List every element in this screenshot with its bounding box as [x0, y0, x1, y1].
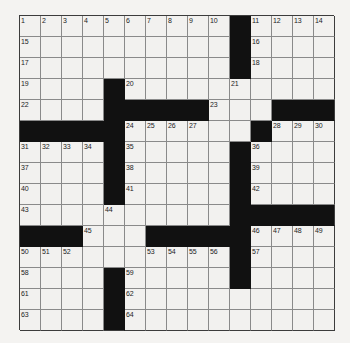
letter-cell[interactable] [209, 184, 230, 205]
letter-cell[interactable] [209, 310, 230, 331]
letter-cell[interactable] [83, 184, 104, 205]
letter-cell[interactable] [146, 79, 167, 100]
letter-cell[interactable] [62, 289, 83, 310]
letter-cell[interactable] [167, 79, 188, 100]
letter-cell[interactable]: 12 [272, 16, 293, 37]
letter-cell[interactable]: 21 [230, 79, 251, 100]
letter-cell[interactable] [188, 163, 209, 184]
letter-cell[interactable] [272, 37, 293, 58]
letter-cell[interactable]: 61 [20, 289, 41, 310]
letter-cell[interactable] [125, 226, 146, 247]
letter-cell[interactable] [251, 100, 272, 121]
letter-cell[interactable] [41, 100, 62, 121]
letter-cell[interactable] [62, 184, 83, 205]
letter-cell[interactable]: 49 [314, 226, 335, 247]
letter-cell[interactable] [188, 268, 209, 289]
letter-cell[interactable] [293, 163, 314, 184]
letter-cell[interactable]: 51 [41, 247, 62, 268]
letter-cell[interactable] [293, 58, 314, 79]
letter-cell[interactable]: 63 [20, 310, 41, 331]
letter-cell[interactable] [167, 184, 188, 205]
letter-cell[interactable] [314, 268, 335, 289]
letter-cell[interactable] [104, 226, 125, 247]
letter-cell[interactable] [293, 289, 314, 310]
letter-cell[interactable]: 32 [41, 142, 62, 163]
letter-cell[interactable]: 33 [62, 142, 83, 163]
letter-cell[interactable]: 46 [251, 226, 272, 247]
letter-cell[interactable]: 64 [125, 310, 146, 331]
letter-cell[interactable] [251, 289, 272, 310]
letter-cell[interactable]: 42 [251, 184, 272, 205]
letter-cell[interactable] [146, 142, 167, 163]
letter-cell[interactable] [167, 37, 188, 58]
letter-cell[interactable]: 23 [209, 100, 230, 121]
letter-cell[interactable] [41, 184, 62, 205]
letter-cell[interactable] [62, 58, 83, 79]
letter-cell[interactable] [251, 268, 272, 289]
letter-cell[interactable] [314, 247, 335, 268]
letter-cell[interactable] [293, 247, 314, 268]
letter-cell[interactable] [188, 184, 209, 205]
letter-cell[interactable]: 59 [125, 268, 146, 289]
letter-cell[interactable]: 52 [62, 247, 83, 268]
letter-cell[interactable]: 28 [272, 121, 293, 142]
letter-cell[interactable] [209, 163, 230, 184]
letter-cell[interactable] [104, 58, 125, 79]
letter-cell[interactable] [293, 37, 314, 58]
letter-cell[interactable] [146, 310, 167, 331]
letter-cell[interactable] [62, 100, 83, 121]
letter-cell[interactable] [272, 58, 293, 79]
letter-cell[interactable] [41, 37, 62, 58]
letter-cell[interactable] [41, 289, 62, 310]
letter-cell[interactable] [272, 79, 293, 100]
letter-cell[interactable] [188, 58, 209, 79]
letter-cell[interactable] [230, 310, 251, 331]
letter-cell[interactable] [83, 79, 104, 100]
letter-cell[interactable] [62, 79, 83, 100]
letter-cell[interactable] [146, 163, 167, 184]
letter-cell[interactable]: 30 [314, 121, 335, 142]
letter-cell[interactable] [62, 310, 83, 331]
letter-cell[interactable]: 24 [125, 121, 146, 142]
letter-cell[interactable] [251, 79, 272, 100]
letter-cell[interactable] [293, 79, 314, 100]
letter-cell[interactable] [146, 205, 167, 226]
letter-cell[interactable] [272, 142, 293, 163]
letter-cell[interactable] [293, 142, 314, 163]
letter-cell[interactable] [41, 268, 62, 289]
letter-cell[interactable]: 29 [293, 121, 314, 142]
letter-cell[interactable]: 48 [293, 226, 314, 247]
letter-cell[interactable] [167, 310, 188, 331]
letter-cell[interactable] [62, 163, 83, 184]
letter-cell[interactable]: 18 [251, 58, 272, 79]
letter-cell[interactable]: 5 [104, 16, 125, 37]
letter-cell[interactable]: 45 [83, 226, 104, 247]
letter-cell[interactable] [62, 268, 83, 289]
letter-cell[interactable] [230, 121, 251, 142]
letter-cell[interactable]: 47 [272, 226, 293, 247]
letter-cell[interactable] [314, 142, 335, 163]
letter-cell[interactable]: 62 [125, 289, 146, 310]
letter-cell[interactable]: 26 [167, 121, 188, 142]
letter-cell[interactable] [146, 58, 167, 79]
letter-cell[interactable] [209, 58, 230, 79]
letter-cell[interactable] [41, 310, 62, 331]
letter-cell[interactable]: 7 [146, 16, 167, 37]
letter-cell[interactable]: 2 [41, 16, 62, 37]
letter-cell[interactable] [188, 205, 209, 226]
letter-cell[interactable]: 11 [251, 16, 272, 37]
letter-cell[interactable]: 10 [209, 16, 230, 37]
letter-cell[interactable] [272, 184, 293, 205]
letter-cell[interactable] [83, 247, 104, 268]
letter-cell[interactable] [314, 310, 335, 331]
letter-cell[interactable] [146, 37, 167, 58]
letter-cell[interactable] [188, 310, 209, 331]
letter-cell[interactable]: 44 [104, 205, 125, 226]
letter-cell[interactable] [125, 58, 146, 79]
letter-cell[interactable] [83, 268, 104, 289]
letter-cell[interactable] [104, 247, 125, 268]
letter-cell[interactable]: 50 [20, 247, 41, 268]
letter-cell[interactable] [62, 37, 83, 58]
letter-cell[interactable] [314, 37, 335, 58]
letter-cell[interactable] [125, 37, 146, 58]
